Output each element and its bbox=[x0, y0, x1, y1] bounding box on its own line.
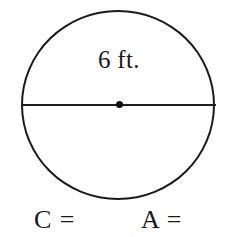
answer-prompts-row: C = A = bbox=[0, 203, 229, 237]
circumference-prompt: C = bbox=[34, 205, 76, 235]
area-prompt: A = bbox=[141, 205, 183, 235]
diameter-label: 6 ft. bbox=[98, 46, 140, 74]
circle-figure: 6 ft. C = A = bbox=[0, 0, 229, 237]
center-point-dot bbox=[116, 101, 123, 108]
